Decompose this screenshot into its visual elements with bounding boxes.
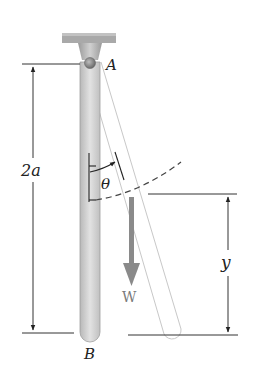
label-A: A [104, 56, 117, 74]
label-y: y [220, 252, 231, 272]
vertical-rod [80, 62, 100, 342]
label-2a: 2a [20, 161, 41, 180]
label-theta: θ [101, 175, 110, 193]
label-W: W [122, 289, 137, 305]
label-B: B [83, 345, 95, 363]
rod-pendulum-diagram: A B 2a θ y W [0, 0, 254, 390]
pivot-pin-icon [85, 58, 96, 69]
length-dimension-2a [22, 64, 80, 333]
